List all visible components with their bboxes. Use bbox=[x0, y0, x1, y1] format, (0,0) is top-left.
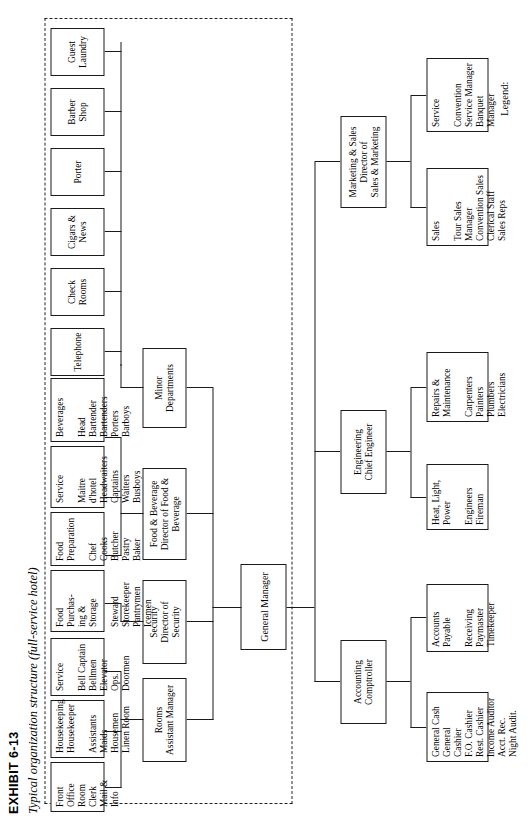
box-general-cash[interactable]: General Cash General Cashier F.O. Cashie… bbox=[426, 692, 488, 762]
line-drop-security bbox=[186, 621, 213, 622]
box-minor-telephone[interactable]: Telephone bbox=[50, 328, 104, 376]
box-division-food-beverage[interactable]: Food & Beverage Director of Food & Bever… bbox=[142, 468, 186, 560]
box-food-purchasing-storage[interactable]: Food Purchas- ing & Storage Steward Stor… bbox=[50, 570, 104, 632]
line-drop-engineering bbox=[314, 451, 340, 452]
line-drop-fb bbox=[186, 513, 213, 514]
line-marketing-down bbox=[386, 161, 410, 162]
box-division-minor-departments[interactable]: Minor Departments bbox=[142, 348, 186, 428]
line-gm-up bbox=[212, 607, 241, 608]
box-food-preparation[interactable]: Food Preparation Chef Cooks Butcher Past… bbox=[50, 512, 104, 566]
legend-label: Legend: bbox=[498, 82, 509, 116]
line-drop-accounting bbox=[314, 681, 340, 682]
box-fb-service[interactable]: Service Maitre d'hotel Headwaiters Capta… bbox=[50, 446, 104, 508]
line-division-bus-top bbox=[212, 388, 213, 720]
line-accounting-payable bbox=[410, 617, 426, 618]
box-repairs-maintenance[interactable]: Repairs & Maintenance Carpenters Painter… bbox=[426, 352, 488, 422]
line-marketing-service bbox=[410, 95, 426, 96]
box-accounts-payable[interactable]: Accounts Payable Receiving Paymaster Tim… bbox=[426, 584, 488, 652]
box-front-office[interactable]: Front Office Room Clerk Mail & Info bbox=[50, 762, 104, 812]
exhibit-number: EXHIBIT 6-13 bbox=[6, 567, 20, 814]
line-minor-drop-5 bbox=[104, 51, 121, 52]
line-minor-bus-left bbox=[120, 364, 121, 388]
line-accounting-down bbox=[386, 681, 410, 682]
line-drop-marketing bbox=[314, 161, 340, 162]
line-minor-drop-4 bbox=[104, 111, 121, 112]
box-heat-light-power[interactable]: Heat, Light, Power Engineers Fireman bbox=[426, 464, 488, 530]
box-division-rooms[interactable]: Rooms Assistant Manager bbox=[142, 678, 186, 762]
line-minor-bus bbox=[120, 42, 121, 366]
box-housekeeping[interactable]: Housekeeping Housekeeper Assistants Maid… bbox=[50, 700, 104, 758]
box-minor-check-rooms[interactable]: Check Rooms bbox=[50, 268, 104, 316]
box-general-manager[interactable]: General Manager bbox=[240, 564, 286, 650]
box-minor-porter[interactable]: Porter bbox=[50, 148, 104, 196]
exhibit-header: EXHIBIT 6-13 Typical organization struct… bbox=[6, 567, 40, 814]
line-minor-drop-0 bbox=[104, 351, 121, 352]
line-fb-down bbox=[120, 513, 143, 514]
box-rooms-service[interactable]: Service Bell Captain Bellmen Elevator Op… bbox=[50, 638, 104, 696]
line-minor-drop-1 bbox=[104, 291, 121, 292]
line-division-bus-bottom bbox=[314, 162, 315, 682]
line-minor-drop-3 bbox=[104, 171, 121, 172]
rotated-chart-canvas: EXHIBIT 6-13 Typical organization struct… bbox=[0, 0, 531, 818]
line-engineering-bus bbox=[410, 388, 411, 498]
box-division-accounting[interactable]: Accounting Comptroller bbox=[340, 640, 386, 724]
box-beverages[interactable]: Beverages Head Bartender Bartenders Port… bbox=[50, 378, 104, 442]
line-engineering-repairs bbox=[410, 387, 426, 388]
exhibit-page: EXHIBIT 6-13 Typical organization struct… bbox=[0, 0, 531, 818]
box-division-engineering[interactable]: Engineering Chief Engineer bbox=[340, 410, 386, 494]
box-minor-barber-shop[interactable]: Barber Shop bbox=[50, 88, 104, 136]
line-minor-down bbox=[120, 387, 143, 388]
line-minor-drop-2 bbox=[104, 231, 121, 232]
line-accounting-bus bbox=[410, 618, 411, 728]
line-gm-down bbox=[286, 607, 314, 608]
line-marketing-bus bbox=[410, 96, 411, 208]
exhibit-title: Typical organization structure (full-ser… bbox=[25, 567, 40, 814]
line-drop-rooms bbox=[186, 719, 213, 720]
box-minor-guest-laundry[interactable]: Guest Laundry bbox=[50, 28, 104, 76]
line-drop-minor bbox=[186, 387, 213, 388]
box-sales[interactable]: Sales Tour Sales Manager Convention Sale… bbox=[426, 168, 488, 246]
line-engineering-hlp bbox=[410, 497, 426, 498]
box-division-marketing-sales[interactable]: Marketing & Sales Director of Sales & Ma… bbox=[340, 116, 386, 208]
line-engineering-down bbox=[386, 451, 410, 452]
box-minor-cigars-news[interactable]: Cigars & News bbox=[50, 208, 104, 256]
box-marketing-service[interactable]: Service Convention Service Manager Banqu… bbox=[426, 58, 488, 132]
line-accounting-general-cash bbox=[410, 727, 426, 728]
line-marketing-sales bbox=[410, 207, 426, 208]
